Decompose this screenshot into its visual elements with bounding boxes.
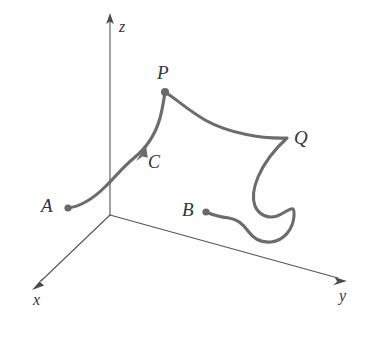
point-label-a: A — [41, 196, 53, 215]
space-curve-figure — [0, 0, 374, 345]
y-axis-line — [110, 215, 338, 278]
figure-container: z x y A P Q B C — [0, 0, 374, 345]
point-label-p: P — [157, 63, 169, 82]
point-marker-a — [64, 204, 71, 211]
y-axis-arrowhead-icon — [333, 277, 347, 285]
axis-label-y: y — [339, 288, 346, 304]
axes-group — [32, 13, 347, 290]
point-label-q: Q — [294, 128, 308, 147]
point-marker-p — [161, 88, 169, 96]
curve-label-c: C — [148, 153, 160, 171]
y-axis — [110, 215, 347, 285]
axis-label-x: x — [33, 292, 40, 308]
x-axis-line — [41, 215, 110, 281]
x-axis — [32, 215, 110, 290]
point-marker-b — [202, 208, 209, 215]
point-label-b: B — [182, 200, 194, 219]
axis-label-z: z — [119, 19, 125, 35]
